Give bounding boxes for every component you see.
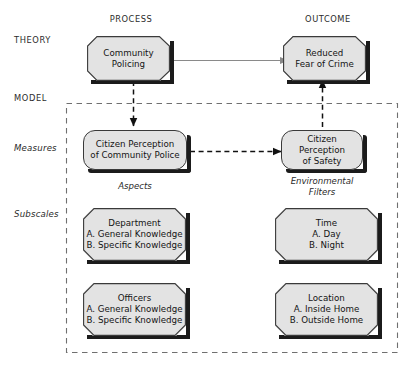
diagram-canvas: PROCESS OUTCOME THEORY MODEL Measures Su…	[0, 0, 412, 366]
node-label: Reduced Fear of Crime	[292, 48, 357, 70]
node-department[interactable]: Department A. General Knowledge B. Speci…	[83, 208, 186, 261]
location-shadow-right	[378, 288, 382, 339]
node-reduced-fear-of-crime[interactable]: Reduced Fear of Crime	[283, 36, 366, 81]
department-shadow-right	[186, 213, 190, 264]
node-citizen-perception-safety[interactable]: Citizen Perception of Safety	[281, 130, 363, 170]
node-label: Community Policing	[100, 48, 156, 70]
officers-shadow-right	[186, 288, 190, 339]
node-label: Officers A. General Knowledge B. Specifi…	[83, 293, 185, 326]
group-label-environmental-filters: Environmental Filters	[272, 176, 372, 197]
community-policing-shadow-right	[170, 41, 174, 84]
node-label: Location A. Inside Home B. Outside Home	[287, 293, 366, 326]
node-citizen-perception-community-police[interactable]: Citizen Perception of Community Police	[83, 130, 187, 170]
cp-safety-shadow-right	[363, 135, 367, 173]
row-label-theory: THEORY	[14, 35, 51, 45]
group-label-aspects: Aspects	[78, 181, 192, 192]
reduced-fear-shadow-right	[366, 41, 370, 84]
column-header-process: PROCESS	[66, 14, 196, 24]
node-label: Department A. General Knowledge B. Speci…	[83, 218, 185, 251]
node-officers[interactable]: Officers A. General Knowledge B. Specifi…	[83, 283, 186, 336]
cp-community-police-shadow-right	[187, 135, 191, 173]
node-label: Citizen Perception of Community Police	[87, 139, 182, 161]
node-location[interactable]: Location A. Inside Home B. Outside Home	[275, 283, 378, 336]
row-label-measures: Measures	[14, 143, 57, 153]
node-time[interactable]: Time A. Day B. Night	[275, 208, 378, 261]
row-label-model: MODEL	[14, 93, 47, 103]
node-community-policing[interactable]: Community Policing	[87, 36, 170, 81]
node-label: Citizen Perception of Safety	[282, 134, 362, 167]
node-label: Time A. Day B. Night	[306, 218, 347, 251]
row-label-subscales: Subscales	[14, 209, 59, 219]
time-shadow-right	[378, 213, 382, 264]
column-header-outcome: OUTCOME	[263, 14, 393, 24]
